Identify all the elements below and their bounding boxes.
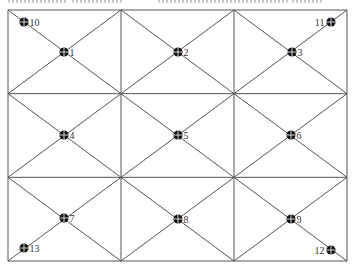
point-12: 12 — [315, 245, 336, 256]
point-4: 4 — [59, 130, 74, 141]
point-label: 7 — [70, 213, 75, 224]
grid-diagram: 12345678910111213 — [0, 0, 354, 273]
point-8: 8 — [173, 214, 188, 225]
point-label: 3 — [298, 47, 303, 58]
point-1: 1 — [59, 47, 74, 58]
point-label: 4 — [70, 130, 75, 141]
point-9: 9 — [286, 214, 301, 225]
point-label: 1 — [70, 47, 75, 58]
point-label: 2 — [184, 47, 189, 58]
point-13: 13 — [19, 243, 39, 254]
point-markers: 12345678910111213 — [19, 17, 335, 256]
point-label: 8 — [184, 214, 189, 225]
point-6: 6 — [286, 130, 301, 141]
point-label: 6 — [297, 130, 302, 141]
point-label: 13 — [30, 243, 40, 254]
point-label: 9 — [297, 214, 302, 225]
point-7: 7 — [59, 213, 74, 224]
point-label: 11 — [315, 17, 325, 28]
point-5: 5 — [173, 130, 188, 141]
point-10: 10 — [19, 17, 39, 28]
point-2: 2 — [173, 47, 188, 58]
point-label: 10 — [30, 17, 40, 28]
point-label: 5 — [184, 130, 189, 141]
point-label: 12 — [315, 245, 325, 256]
